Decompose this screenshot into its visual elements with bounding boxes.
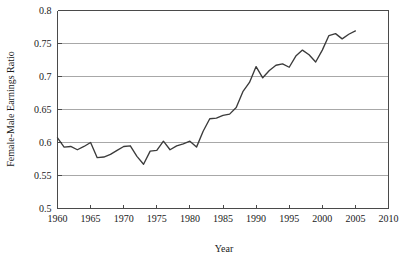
x-axis-title: Year xyxy=(215,243,234,254)
y-tick-label: 0.75 xyxy=(34,38,52,49)
chart-container: 1960196519701975198019851990199520002005… xyxy=(0,0,403,263)
x-tick-label: 1995 xyxy=(279,213,299,224)
y-tick-label: 0.8 xyxy=(39,5,52,16)
x-tick-label: 1990 xyxy=(246,213,266,224)
y-axis-title: Female-Male Earnings Ratio xyxy=(5,51,16,167)
x-tick-label: 1970 xyxy=(114,213,134,224)
x-tick-labels-group: 1960196519701975198019851990199520002005… xyxy=(48,213,399,224)
y-tick-label: 0.6 xyxy=(39,137,52,148)
y-tick-labels-group: 0.50.550.60.650.70.750.8 xyxy=(34,5,52,214)
x-tick-label: 1985 xyxy=(213,213,233,224)
gridlines-group xyxy=(58,11,389,176)
line-chart: 1960196519701975198019851990199520002005… xyxy=(0,0,403,263)
y-tick-label: 0.55 xyxy=(34,170,52,181)
y-tick-label: 0.65 xyxy=(34,104,52,115)
x-tick-label: 1965 xyxy=(81,213,101,224)
x-tick-label: 1960 xyxy=(48,213,68,224)
y-tick-label: 0.7 xyxy=(39,71,52,82)
x-tick-label: 2000 xyxy=(312,213,332,224)
x-tick-label: 1975 xyxy=(147,213,167,224)
y-tick-label: 0.5 xyxy=(39,203,52,214)
x-tick-label: 1980 xyxy=(180,213,200,224)
x-tick-label: 2005 xyxy=(345,213,365,224)
data-series-line xyxy=(58,31,356,164)
x-tick-label: 2010 xyxy=(379,213,399,224)
data-series-group xyxy=(58,31,356,164)
